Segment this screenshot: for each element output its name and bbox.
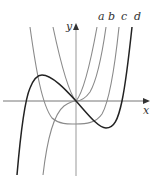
curve-label-a: a: [98, 10, 105, 23]
curve-label-c: c: [121, 10, 127, 23]
curve-label-d: d: [134, 10, 141, 23]
y-axis-arrow-icon: [73, 23, 79, 30]
function-graph: x y a b c d: [0, 0, 155, 180]
x-axis-label: x: [143, 104, 150, 117]
curve-label-b: b: [108, 10, 115, 23]
y-axis-label: y: [65, 20, 73, 33]
curve-a: [53, 27, 97, 101]
